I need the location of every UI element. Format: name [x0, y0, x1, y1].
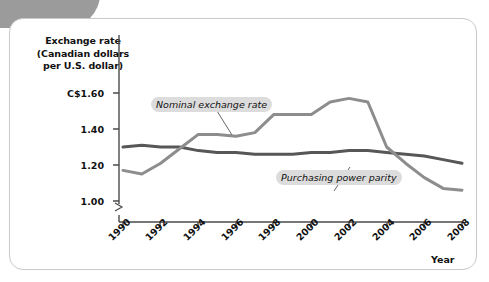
- figure-page: Exchange rate (Canadian dollars per U.S.…: [0, 0, 489, 282]
- figure-card: Exchange rate (Canadian dollars per U.S.…: [9, 18, 477, 270]
- figure-card-inner: Exchange rate (Canadian dollars per U.S.…: [10, 19, 476, 269]
- annotation-leader-nominal: [217, 111, 232, 135]
- x-axis-title: Year: [431, 254, 455, 265]
- y-tick-label-100: 1.00: [46, 196, 104, 207]
- axis-break-mark: [115, 203, 122, 211]
- y-tick-label-120: 1.20: [46, 160, 104, 171]
- annotation-nominal-exchange-rate: Nominal exchange rate: [151, 97, 272, 112]
- y-tick-label-160: C$1.60: [46, 88, 104, 99]
- y-tick-label-140: 1.40: [46, 124, 104, 135]
- x-tick-marks: [123, 222, 462, 228]
- y-tick-marks: [113, 93, 119, 201]
- annotation-purchasing-power-parity: Purchasing power parity: [276, 170, 402, 185]
- chart-canvas: [10, 19, 476, 269]
